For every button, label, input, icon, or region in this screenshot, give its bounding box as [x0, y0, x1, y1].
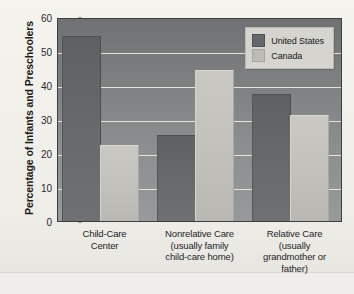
bar-canada-group-3 [290, 115, 329, 221]
y-axis-tick-0: 0 [26, 217, 52, 228]
y-axis-tick-60: 60 [26, 13, 52, 24]
bar-united-states-group-2 [157, 135, 196, 221]
x-axis-label-line: Nonrelative Care [152, 228, 247, 240]
x-axis-label-line: Relative Care [247, 228, 342, 240]
x-axis-category-labels: Child-CareCenterNonrelative Care(usually… [57, 228, 342, 284]
legend-item-united-states: United States [252, 33, 324, 48]
x-axis-label-line: father) [247, 263, 342, 275]
x-axis-label-group-3: Relative Care(usuallygrandmother orfathe… [247, 228, 342, 274]
legend-swatch-icon-us [252, 34, 265, 47]
plot-area: United StatesCanada [57, 18, 342, 222]
x-axis-label-line: Child-Care [57, 228, 152, 240]
bar-united-states-group-3 [252, 94, 291, 221]
x-axis-label-line: (usually [247, 240, 342, 252]
x-axis-label-group-1: Child-CareCenter [57, 228, 152, 251]
x-axis-label-line: Center [57, 240, 152, 252]
y-axis-tick-40: 40 [26, 81, 52, 92]
y-axis-tick-50: 50 [26, 47, 52, 58]
x-axis-label-line: (usually family [152, 240, 247, 252]
y-axis-tick-10: 10 [26, 183, 52, 194]
legend-label: Canada [271, 51, 302, 61]
x-axis-label-group-2: Nonrelative Care(usually familychild-car… [152, 228, 247, 263]
bar-united-states-group-1 [62, 36, 101, 221]
legend-item-canada: Canada [252, 48, 324, 63]
y-axis-tick-30: 30 [26, 115, 52, 126]
bar-canada-group-2 [195, 70, 234, 221]
chart-legend: United StatesCanada [245, 27, 334, 69]
legend-label: United States [271, 36, 324, 46]
y-axis-tick-20: 20 [26, 149, 52, 160]
bar-canada-group-1 [100, 145, 139, 221]
y-axis-tick-labels: 6050403020100 [26, 18, 52, 222]
x-axis-label-line: grandmother or [247, 251, 342, 263]
legend-swatch-icon-ca [252, 49, 265, 62]
x-axis-label-line: child-care home) [152, 251, 247, 263]
